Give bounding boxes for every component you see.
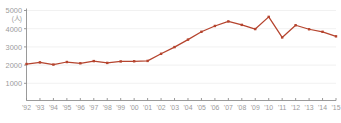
data-point-marker <box>25 63 27 65</box>
y-tick-label: 2000 <box>6 61 22 70</box>
data-point-marker <box>66 61 68 63</box>
data-point-marker <box>294 24 296 26</box>
x-tick-label: '07 <box>224 104 233 111</box>
x-tick-label: '05 <box>197 104 206 111</box>
data-series <box>25 16 337 66</box>
data-point-marker <box>321 31 323 33</box>
x-tick-label: '93 <box>35 104 44 111</box>
data-point-marker <box>214 25 216 27</box>
x-tick-label: '15 <box>332 104 341 111</box>
data-point-marker <box>187 38 189 40</box>
data-point-marker <box>241 24 243 26</box>
x-tick-label: '09 <box>251 104 260 111</box>
x-tick-label: '12 <box>291 104 300 111</box>
x-tick-label: '03 <box>170 104 179 111</box>
series-line <box>27 17 337 65</box>
data-point-marker <box>120 60 122 62</box>
data-point-marker <box>146 60 148 62</box>
x-tick-label: '14 <box>318 104 327 111</box>
x-axis: '92'93'94'95'96'97'98'99'00'01'02'03'04'… <box>22 98 341 111</box>
data-point-marker <box>79 62 81 64</box>
x-tick-label: '11 <box>278 104 287 111</box>
data-point-marker <box>160 53 162 55</box>
x-tick-label: '98 <box>103 104 112 111</box>
x-tick-label: '97 <box>89 104 98 111</box>
x-tick-label: '08 <box>237 104 246 111</box>
data-point-marker <box>106 62 108 64</box>
x-tick-label: '99 <box>116 104 125 111</box>
chart-canvas: 50004000300020001000(人) '92'93'94'95'96'… <box>0 0 341 123</box>
y-axis-unit-label: (人) <box>12 15 22 23</box>
x-tick-label: '96 <box>76 104 85 111</box>
y-tick-label: 3000 <box>6 43 22 52</box>
data-point-marker <box>133 60 135 62</box>
data-point-marker <box>308 28 310 30</box>
data-point-marker <box>281 36 283 38</box>
gridlines <box>27 11 337 84</box>
x-tick-label: '95 <box>62 104 71 111</box>
x-tick-label: '10 <box>264 104 273 111</box>
line-chart: 50004000300020001000(人) '92'93'94'95'96'… <box>0 0 341 123</box>
x-tick-label: '01 <box>143 104 152 111</box>
y-tick-label: 4000 <box>6 25 22 34</box>
x-tick-label: '02 <box>157 104 166 111</box>
data-point-marker <box>200 31 202 33</box>
data-point-marker <box>52 63 54 65</box>
data-point-marker <box>93 60 95 62</box>
data-point-marker <box>39 61 41 63</box>
y-tick-label: 1000 <box>6 79 22 88</box>
x-tick-label: '94 <box>49 104 58 111</box>
data-point-marker <box>254 28 256 30</box>
y-axis: 50004000300020001000(人) <box>6 6 27 100</box>
x-tick-label: '00 <box>130 104 139 111</box>
data-point-marker <box>335 35 337 37</box>
x-tick-label: '13 <box>305 104 314 111</box>
x-tick-label: '92 <box>22 104 31 111</box>
data-point-marker <box>173 46 175 48</box>
x-tick-label: '06 <box>210 104 219 111</box>
x-tick-label: '04 <box>183 104 192 111</box>
data-point-marker <box>268 16 270 18</box>
y-tick-label: 5000 <box>6 6 22 15</box>
data-point-marker <box>227 20 229 22</box>
